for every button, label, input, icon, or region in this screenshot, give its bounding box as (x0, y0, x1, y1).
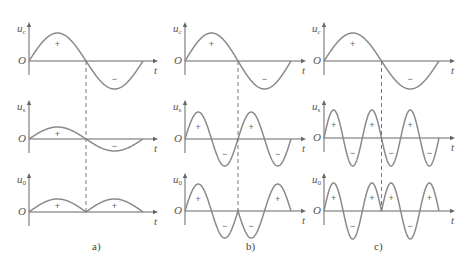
panel-a-u0-sign: + (55, 201, 60, 211)
panel-c-u0-sign: − (350, 221, 355, 231)
panel-b-row-2-t-arrow-icon (301, 209, 306, 213)
panel-b-row-1-t-label: t (302, 143, 305, 154)
panel-b-row-2-y-arrow-icon (183, 173, 187, 178)
panel-b-u0-sign: − (222, 221, 227, 231)
panel-b-row-1-y-arrow-icon (183, 100, 187, 105)
demodulation-waveform-figure: +−++−++−++−−+−−++−++−−++−++−−+ OtucOtusO… (0, 0, 470, 267)
panel-b-row-2-ylabel: u0 (173, 174, 182, 187)
panel-b-row-1-origin-label: O (174, 133, 182, 144)
waveform-plots: +−++−++−++−−+−−++−++−−++−++−−+ (0, 0, 470, 267)
panel-b-uc-minus: − (262, 74, 267, 84)
panel-b-row-0-t-arrow-icon (301, 59, 306, 63)
panel-b-caption: b) (246, 241, 255, 252)
panel-c-row-1-t-label: t (451, 142, 454, 153)
panel-a-row-1-origin-label: O (18, 133, 26, 144)
panel-c-row-0-origin-label: O (313, 55, 321, 66)
panel-c-uc-plus: + (350, 39, 355, 49)
panel-c-u0-sign: + (427, 193, 432, 203)
panel-b-row-1-ylabel: us (173, 101, 181, 114)
panel-c-us-sign: − (427, 148, 432, 158)
panel-a-row-0-y-arrow-icon (27, 22, 31, 27)
panel-a-caption: a) (92, 241, 101, 252)
panel-c-us-sign: + (331, 120, 336, 130)
panel-b-row-0-origin-label: O (174, 55, 182, 66)
panel-b-uc-plus: + (209, 39, 214, 49)
panel-a-uc-minus: − (112, 74, 117, 84)
panel-a-row-1-t-arrow-icon (153, 137, 158, 141)
panel-c-row-1-origin-label: O (313, 132, 321, 143)
panel-c-row-0-ylabel: uc (312, 23, 321, 36)
panel-c-row-0-t-label: t (451, 65, 454, 76)
panel-c-us-sign: + (369, 120, 374, 130)
panel-a-row-0-ylabel: uc (17, 23, 26, 36)
panel-a-row-0-t-label: t (154, 65, 157, 76)
panel-a-row-2-ylabel: u0 (17, 174, 26, 187)
panel-c-caption: c) (374, 241, 383, 252)
panel-c-row-2-ylabel: u0 (312, 174, 321, 187)
panel-a-u0-sign: + (112, 201, 117, 211)
panel-b-row-1-t-arrow-icon (301, 137, 306, 141)
panel-a-row-1-t-label: t (154, 143, 157, 154)
panel-b-row-0-t-label: t (302, 65, 305, 76)
panel-a-row-1-y-arrow-icon (27, 100, 31, 105)
panel-a-row-0-t-arrow-icon (153, 59, 158, 63)
panel-b-u0-sign: − (249, 221, 254, 231)
panel-c-row-2-origin-label: O (313, 205, 321, 216)
panel-a-us-sign: + (55, 129, 60, 139)
panel-b-us-sign: − (275, 149, 280, 159)
panel-c-row-1-y-arrow-icon (322, 100, 326, 105)
panel-b-us-sign: − (222, 149, 227, 159)
panel-a-row-2-t-label: t (154, 216, 157, 227)
panel-a-row-1-ylabel: us (17, 101, 25, 114)
panel-b-u0-sign: + (275, 194, 280, 204)
panel-a-row-2-origin-label: O (18, 206, 26, 217)
panel-c-row-1-ylabel: us (312, 101, 320, 114)
panel-c-us-sign: + (408, 120, 413, 130)
panel-c-row-2-t-arrow-icon (450, 209, 455, 213)
panel-c-us-sign: − (388, 148, 393, 158)
panel-a-row-2-y-arrow-icon (27, 173, 31, 178)
panel-b-u0-sign: + (196, 194, 201, 204)
panel-c-row-0-t-arrow-icon (450, 59, 455, 63)
panel-c-row-2-t-label: t (451, 215, 454, 226)
panel-a-us-sign: − (112, 141, 117, 151)
panel-c-us-sign: − (350, 148, 355, 158)
panel-a-uc-plus: + (55, 39, 60, 49)
panel-b-row-2-origin-label: O (174, 205, 182, 216)
panel-b-row-0-ylabel: uc (173, 23, 182, 36)
panel-c-u0-sign: + (331, 193, 336, 203)
panel-b-row-2-t-label: t (302, 215, 305, 226)
panel-b-us-sign: + (196, 122, 201, 132)
panel-a-row-0-origin-label: O (18, 55, 26, 66)
panel-c-row-2-y-arrow-icon (322, 173, 326, 178)
panel-c-u0-sign: − (408, 221, 413, 231)
panel-c-u0-sign: + (369, 193, 374, 203)
panel-b-row-0-y-arrow-icon (183, 22, 187, 27)
panel-c-u0-sign: + (388, 193, 393, 203)
panel-a-row-2-t-arrow-icon (153, 210, 158, 214)
panel-c-row-1-t-arrow-icon (450, 136, 455, 140)
panel-c-row-0-y-arrow-icon (322, 22, 326, 27)
panel-c-uc-minus: − (408, 74, 413, 84)
panel-b-us-sign: + (249, 122, 254, 132)
